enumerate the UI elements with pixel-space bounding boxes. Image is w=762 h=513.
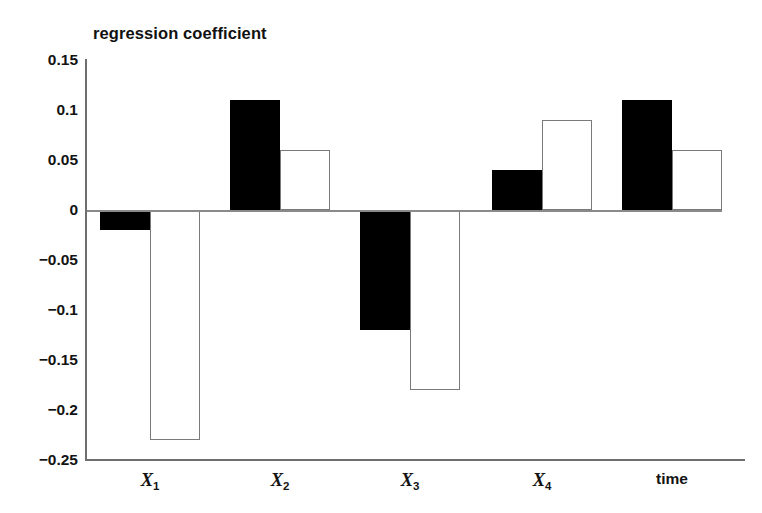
bar-X2-filled	[230, 100, 280, 210]
y-axis-tick-label: −0.2	[8, 401, 78, 419]
y-axis-tick-labels: 0.150.10.050−0.05−0.1−0.15−0.2−0.25	[8, 0, 78, 513]
bar-X3-filled	[360, 210, 410, 330]
y-axis-tick-label: 0.15	[8, 51, 78, 69]
bar-time-hollow	[672, 150, 722, 210]
bar-X3-hollow	[410, 210, 460, 390]
bar-X4-filled	[492, 170, 542, 210]
chart-title: regression coefficient	[93, 24, 267, 43]
bar-X1-filled	[100, 210, 150, 230]
x-axis-tick-label: X3	[350, 470, 470, 492]
bar-chart: regression coefficient 0.150.10.050−0.05…	[0, 0, 762, 513]
bar-X2-hollow	[280, 150, 330, 210]
y-axis-tick-label: 0	[8, 201, 78, 219]
y-axis-line	[85, 59, 87, 461]
x-axis-line	[85, 459, 745, 461]
y-axis-tick-label: −0.25	[8, 451, 78, 469]
y-axis-tick-label: −0.05	[8, 251, 78, 269]
bar-time-filled	[622, 100, 672, 210]
bar-X1-hollow	[150, 210, 200, 440]
x-axis-tick-label: X1	[90, 470, 210, 492]
y-axis-tick-label: −0.1	[8, 301, 78, 319]
x-axis-tick-label: time	[612, 470, 732, 488]
y-axis-tick-label: 0.05	[8, 151, 78, 169]
zero-baseline	[85, 210, 722, 212]
y-axis-tick-label: −0.15	[8, 351, 78, 369]
bar-X4-hollow	[542, 120, 592, 210]
y-axis-tick-label: 0.1	[8, 101, 78, 119]
x-axis-tick-label: X4	[482, 470, 602, 492]
x-axis-tick-label: X2	[220, 470, 340, 492]
